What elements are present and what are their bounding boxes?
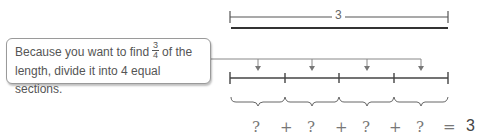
- plus-sign: +: [389, 118, 402, 136]
- divided-length-line: [230, 72, 448, 84]
- callout-text-line1-start: Because you want to find: [15, 45, 149, 59]
- equals-sign: =: [443, 118, 456, 136]
- section-braces: [231, 97, 448, 106]
- unknown-term-2: ?: [307, 118, 315, 136]
- callout-connector: [211, 59, 424, 71]
- total-length-label: 3: [332, 8, 345, 22]
- total-value: 3: [466, 117, 475, 135]
- callout-text-line1-end: of the: [162, 45, 192, 59]
- explanation-callout: Because you want to find34of the length,…: [6, 38, 211, 84]
- unknown-term-1: ?: [252, 118, 260, 136]
- plus-sign: +: [280, 118, 293, 136]
- unknown-term-4: ?: [416, 118, 424, 136]
- unknown-term-3: ?: [362, 118, 370, 136]
- plus-sign: +: [335, 118, 348, 136]
- fraction-three-fourths: 34: [152, 41, 159, 60]
